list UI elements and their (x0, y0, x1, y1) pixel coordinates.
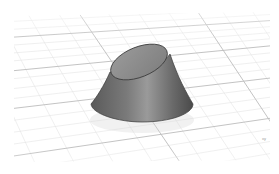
axis-indicator-label: xy (262, 136, 266, 141)
perspective-grid (0, 0, 279, 174)
3d-viewport[interactable]: xy (0, 0, 279, 174)
